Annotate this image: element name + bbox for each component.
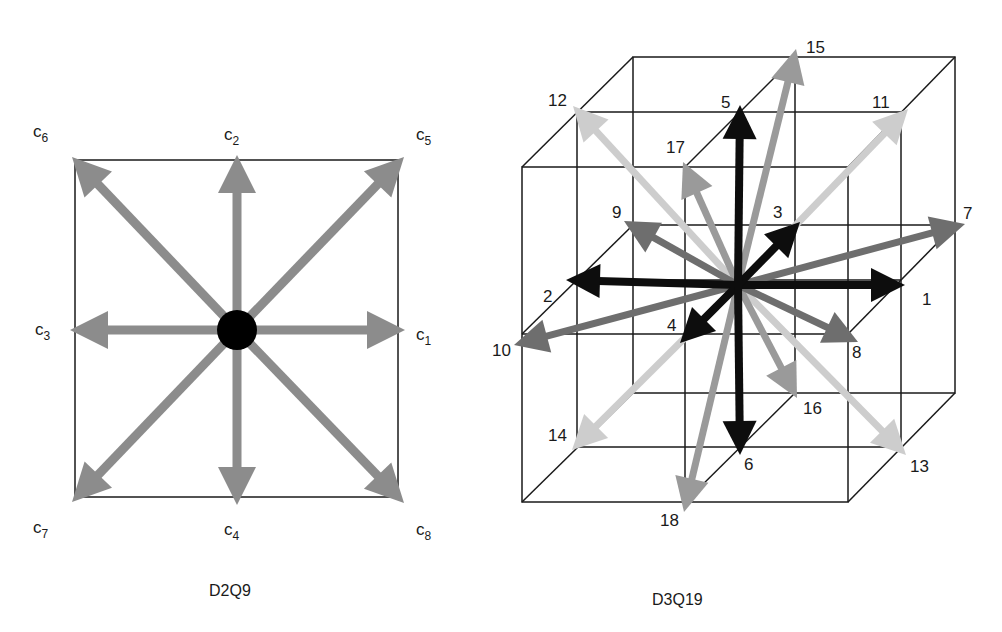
- d2q9-arrow-c5: [237, 157, 404, 330]
- d2q9-arrow-c7: [72, 330, 237, 502]
- d2q9-arrow-c2: [218, 155, 256, 330]
- d3q19-label-8: 8: [852, 343, 861, 362]
- d3q19-label-13: 13: [910, 457, 929, 476]
- d3q19-diagram: 1 2 3 4 5 6 7 8 9 10 11 12 13 14 15 16 1…: [492, 38, 972, 608]
- d3q19-label-14: 14: [548, 426, 567, 445]
- d2q9-arrow-c1: [237, 311, 405, 349]
- d3q19-caption: D3Q19: [652, 591, 703, 608]
- d2q9-label-c4: c4: [224, 520, 240, 543]
- d3q19-label-10: 10: [492, 341, 511, 360]
- d2q9-label-c8: c8: [416, 520, 432, 543]
- d2q9-label-c6: c6: [33, 122, 49, 145]
- d3q19-label-15: 15: [806, 38, 825, 57]
- d3q19-label-4: 4: [667, 316, 676, 335]
- d3q19-label-1: 1: [922, 290, 931, 309]
- d3q19-label-9: 9: [612, 203, 621, 222]
- d2q9-label-c3: c3: [35, 320, 51, 343]
- d2q9-caption: D2Q9: [209, 582, 251, 599]
- d2q9-label-c7: c7: [33, 518, 49, 541]
- d3q19-label-11: 11: [872, 93, 890, 112]
- d2q9-rest-particle: [217, 310, 257, 350]
- d3q19-label-16: 16: [803, 399, 822, 418]
- d3q19-label-17: 17: [666, 138, 685, 157]
- d3q19-arrow-13: [738, 285, 906, 455]
- d3q19-label-12: 12: [548, 91, 567, 110]
- d2q9-label-c2: c2: [224, 125, 240, 148]
- d2q9-arrow-c3: [70, 311, 237, 349]
- lattice-figure: c1 c2 c3 c4 c5 c6 c7 c8 D2Q9: [0, 0, 1002, 632]
- d2q9-arrow-c8: [237, 330, 404, 503]
- d2q9-arrow-c4: [218, 330, 256, 505]
- d3q19-label-3: 3: [773, 203, 782, 222]
- d3q19-label-6: 6: [744, 455, 753, 474]
- d3q19-arrow-12: [573, 106, 738, 285]
- d3q19-label-7: 7: [963, 204, 972, 223]
- d3q19-label-18: 18: [660, 511, 679, 530]
- d3q19-label-2: 2: [543, 287, 552, 306]
- d2q9-diagram: c1 c2 c3 c4 c5 c6 c7 c8 D2Q9: [33, 122, 432, 599]
- d3q19-label-5: 5: [721, 93, 730, 112]
- d2q9-label-c5: c5: [416, 125, 432, 148]
- d2q9-label-c1: c1: [416, 325, 432, 348]
- d2q9-arrow-c6: [72, 157, 237, 330]
